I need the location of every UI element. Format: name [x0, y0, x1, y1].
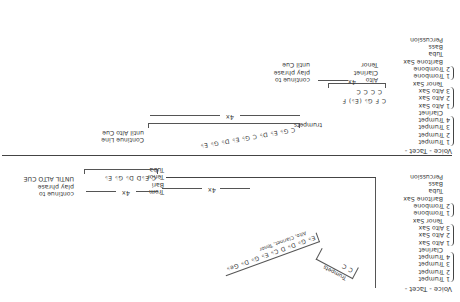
alto-group-labels: Alto Clarinet Tenor: [354, 62, 378, 84]
instruction-line: UNTIL ALTO CUE: [24, 176, 74, 183]
instrument-label: 1 Alto Sax: [403, 239, 450, 246]
document-page: Voice - Tacet - 1 Trumpet 2 Trumpet 3 Tr…: [0, 0, 460, 302]
section-a-instruction: continue to play phrase UNTIL ALTO CUE: [24, 176, 74, 198]
repeat-line-right: [86, 191, 116, 192]
repeat-count: 4x: [122, 189, 130, 196]
instruction-line: until Alto Cue: [101, 129, 144, 136]
repeat-line-right: [150, 115, 220, 116]
instrument-label: Clarinet: [403, 110, 450, 117]
section-b-heading: Voice - Tacet -: [405, 147, 452, 154]
diagonal-phrase: E♭ G♭ D♭ D C♭ E♭ G♭ D♭ Ge♭ Alto, Clarine…: [220, 225, 320, 276]
instrument-label: 1 Trumpet: [403, 139, 450, 146]
instrument-label: 1 Trombone: [403, 73, 450, 80]
instrument-label: 3 Trumpet: [403, 124, 450, 131]
instrument-label: Baritone Sax: [403, 195, 450, 202]
instrument-label: Bass: [403, 44, 450, 51]
alto-group-instruction: continue to play phrase until Cue: [274, 62, 310, 84]
instrument-label: 2 Trumpet: [403, 268, 450, 275]
trumpet-group-notes: C G♭ E♭ D♭ C G♭ E♭ D♭ G♭ E♭: [200, 126, 296, 150]
group-label: Bari: [147, 181, 164, 188]
section-a-instrument-list: 1 Trumpet 2 Trumpet 3 Trumpet 4 Trumpet …: [403, 174, 450, 283]
instruction-line: continue to: [24, 191, 74, 198]
instrument-label: Tuba: [403, 51, 450, 58]
instrument-label: Percussion: [403, 174, 450, 181]
instrument-label: 1 Alto Sax: [403, 102, 450, 109]
instrument-label: 2 Alto Sax: [403, 232, 450, 239]
repeat-line-right: [162, 188, 202, 189]
trombone-brace: [450, 203, 454, 217]
section-a-heading: Voice - Tacet -: [405, 285, 452, 292]
instrument-label: 2 Trombone: [403, 66, 450, 73]
section-divider: [2, 155, 452, 156]
repeat-count: 4x: [226, 113, 234, 120]
instruction-line: continue to: [274, 77, 310, 84]
trumpet-brace: [450, 252, 454, 282]
section-b-instrument-list: 1 Trumpet 2 Trumpet 3 Trumpet 4 Trumpet …: [403, 37, 450, 146]
alto-group-bracket: [328, 83, 386, 88]
trumpet-group-instruction: Continue Line until Alto Cue: [101, 129, 144, 144]
section-a-box-bottom: [166, 177, 376, 178]
instruction-line: play phrase: [274, 69, 310, 76]
repeat-count: 4x: [208, 186, 216, 193]
instrument-label: 2 Trombone: [403, 203, 450, 210]
instrument-label: 3 Alto Sax: [403, 225, 450, 232]
instrument-label: Baritone Sax: [403, 58, 450, 65]
instrument-label: 3 Alto Sax: [403, 88, 450, 95]
instrument-label: 1 Trumpet: [403, 276, 450, 283]
trumpet-figure: Trumpets C C: [314, 245, 360, 282]
instruction-line: Continue Line: [101, 137, 144, 144]
group-label: Trom: [147, 189, 164, 196]
repeat-line-left: [240, 115, 300, 116]
alto-group-notes: C F G♭ (E♭) F: [342, 98, 386, 105]
trumpet-group-bracket: [148, 123, 300, 128]
instrument-label: 4 Trumpet: [403, 254, 450, 261]
alto-brace: [450, 224, 454, 246]
instruction-line: play phrase: [24, 183, 74, 190]
trom-bari-bracket: [84, 169, 158, 174]
instruction-line: until Cue: [274, 62, 310, 69]
instrument-label: Bass: [403, 181, 450, 188]
instrument-label: 2 Trumpet: [403, 131, 450, 138]
repeat-line-left: [220, 188, 250, 189]
instrument-label: 2 Alto Sax: [403, 95, 450, 102]
trombone-brace: [450, 66, 454, 80]
alto-group-accents: C C C C: [356, 89, 382, 96]
instrument-label: 1 Trombone: [403, 210, 450, 217]
repeat-count: 4x: [348, 78, 356, 85]
instrument-label: Tenor Sax: [403, 80, 450, 87]
instrument-label: 4 Trumpet: [403, 117, 450, 124]
trumpet-brace: [450, 116, 454, 146]
instrument-label: 3 Trumpet: [403, 261, 450, 268]
repeat-line-right: [318, 80, 348, 81]
alto-brace: [450, 87, 454, 109]
group-label: Tenor: [354, 62, 378, 69]
instrument-label: Tuba: [403, 188, 450, 195]
instrument-label: Clarinet: [403, 247, 450, 254]
group-label: Clarinet: [354, 69, 378, 76]
trom-bari-notes: C E♭D D♭ G♭ E♭: [104, 175, 156, 182]
section-a-box-left: [375, 178, 376, 288]
repeat-line-left: [136, 191, 158, 192]
instrument-label: Tenor Sax: [403, 217, 450, 224]
instrument-label: Percussion: [403, 37, 450, 44]
